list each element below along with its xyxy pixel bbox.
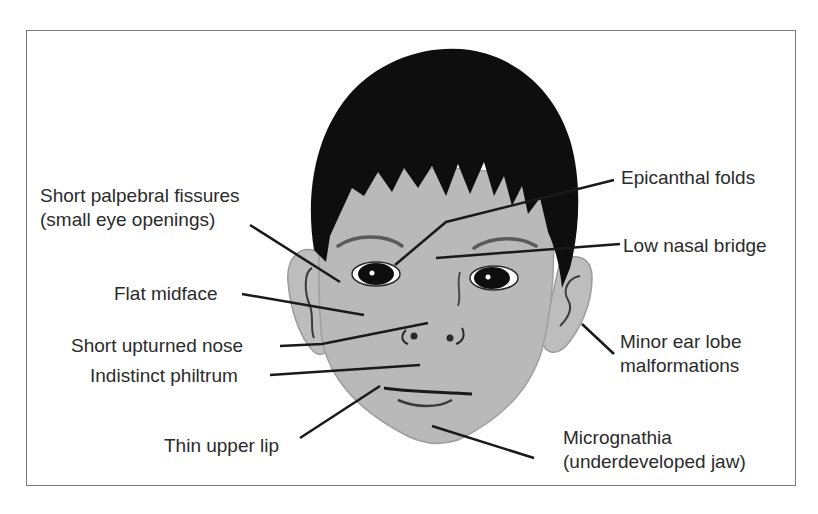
label-micrognathia: Micrognathia (underdeveloped jaw) bbox=[563, 426, 746, 474]
leader-ear bbox=[582, 324, 614, 354]
label-epicanthal-folds: Epicanthal folds bbox=[621, 166, 755, 190]
label-minor-ear-lobe-malformations: Minor ear lobe malformations bbox=[620, 330, 741, 378]
label-short-upturned-nose: Short upturned nose bbox=[71, 334, 243, 358]
label-short-palpebral-fissures: Short palpebral fissures (small eye open… bbox=[40, 184, 240, 232]
right-eye bbox=[470, 266, 518, 290]
label-thin-upper-lip: Thin upper lip bbox=[164, 434, 279, 458]
left-eye bbox=[352, 262, 400, 286]
label-flat-midface: Flat midface bbox=[114, 282, 217, 306]
label-indistinct-philtrum: Indistinct philtrum bbox=[90, 364, 238, 388]
label-low-nasal-bridge: Low nasal bridge bbox=[623, 234, 767, 258]
leader-lip bbox=[300, 386, 380, 438]
